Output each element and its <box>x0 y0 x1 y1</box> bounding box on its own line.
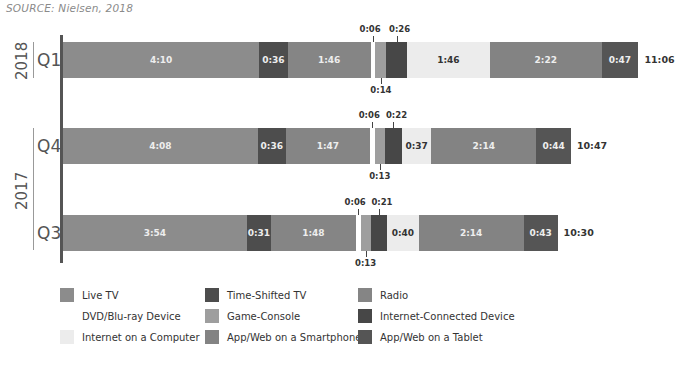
segment-time-shifted-tv: 0:36 <box>258 128 286 164</box>
legend-swatch <box>60 288 74 302</box>
segment-live-tv: 4:10 <box>63 42 259 78</box>
legend-item-tablet: App/Web on a Tablet <box>358 330 483 344</box>
callout-dvd: 0:06 <box>359 110 380 120</box>
segment-time-shifted-tv: 0:36 <box>259 42 287 78</box>
segment-radio: 1:46 <box>288 42 371 78</box>
total-label: 10:30 <box>564 227 594 238</box>
legend-swatch <box>205 309 219 323</box>
callout-internet-connected-device: 0:22 <box>386 110 407 120</box>
legend-swatch <box>358 330 372 344</box>
callout-game-console: 0:13 <box>355 258 376 268</box>
segment-radio: 1:47 <box>286 128 370 164</box>
segment-game-console <box>361 215 371 251</box>
year-divider-2018 <box>33 42 34 78</box>
legend-swatch <box>60 309 74 323</box>
segment-smartphone: 2:14 <box>431 128 536 164</box>
segment-smartphone: 2:14 <box>419 215 524 251</box>
legend-item-internet-connected-device: Internet-Connected Device <box>358 309 515 323</box>
segment-time-shifted-tv: 0:31 <box>247 215 271 251</box>
legend-swatch <box>358 309 372 323</box>
callout-internet-connected-device: 0:26 <box>389 24 410 34</box>
year-divider-2017 <box>33 128 34 250</box>
segment-smartphone: 2:22 <box>490 42 601 78</box>
callout-tick <box>397 36 398 42</box>
total-label: 11:06 <box>644 54 674 65</box>
legend-swatch <box>205 288 219 302</box>
callout-game-console: 0:14 <box>370 85 391 95</box>
segment-internet-connected-device <box>371 215 387 251</box>
segment-internet-on-computer: 0:37 <box>402 128 431 164</box>
callout-game-console: 0:13 <box>369 171 390 181</box>
callout-tick <box>380 164 381 170</box>
legend-item-smartphone: App/Web on a Smartphone <box>205 330 361 344</box>
legend-swatch <box>358 288 372 302</box>
quarter-label-q1: Q1 <box>37 50 61 70</box>
segment-live-tv: 3:54 <box>63 215 247 251</box>
callout-tick <box>358 209 359 215</box>
callout-tick <box>372 122 373 128</box>
legend-swatch <box>205 330 219 344</box>
segment-game-console <box>375 128 385 164</box>
segment-radio: 1:48 <box>271 215 356 251</box>
segment-internet-connected-device <box>385 128 402 164</box>
callout-tick <box>373 36 374 42</box>
callout-internet-connected-device: 0:21 <box>371 197 392 207</box>
legend-item-time-shifted-tv: Time-Shifted TV <box>205 288 306 302</box>
callout-dvd: 0:06 <box>359 24 380 34</box>
segment-internet-on-computer: 0:40 <box>387 215 418 251</box>
legend-item-radio: Radio <box>358 288 408 302</box>
quarter-label-q4: Q4 <box>37 136 61 156</box>
segment-game-console <box>375 42 386 78</box>
segment-tablet: 0:44 <box>536 128 571 164</box>
callout-tick <box>379 209 380 215</box>
segment-internet-connected-device <box>386 42 406 78</box>
source-caption: SOURCE: Nielsen, 2018 <box>6 2 133 14</box>
callout-tick <box>381 78 382 84</box>
segment-tablet: 0:43 <box>524 215 558 251</box>
legend-swatch <box>60 330 74 344</box>
segment-internet-on-computer: 1:46 <box>407 42 490 78</box>
year-label-2017: 2017 <box>13 172 31 210</box>
callout-dvd: 0:06 <box>345 197 366 207</box>
total-label: 10:47 <box>577 140 607 151</box>
callout-tick <box>393 122 394 128</box>
quarter-label-q3: Q3 <box>37 223 61 243</box>
legend-item-dvd: DVD/Blu-ray Device <box>60 309 181 323</box>
segment-tablet: 0:47 <box>602 42 639 78</box>
segment-live-tv: 4:08 <box>63 128 258 164</box>
year-label-2018: 2018 <box>13 42 31 80</box>
legend-item-internet-on-computer: Internet on a Computer <box>60 330 200 344</box>
legend-item-live-tv: Live TV <box>60 288 119 302</box>
callout-tick <box>366 251 367 257</box>
legend-item-game-console: Game-Console <box>205 309 300 323</box>
